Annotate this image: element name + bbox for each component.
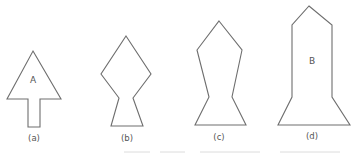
shape-d-inner-label: B	[309, 56, 315, 66]
shape-a-outline	[7, 51, 61, 127]
shape-d: B (d)	[278, 6, 350, 141]
shape-c: (c)	[195, 21, 246, 142]
shape-a-caption: (a)	[28, 133, 40, 143]
shape-b: (b)	[101, 36, 151, 143]
shapes-figure: A (a) (b) (c) B (d)	[0, 0, 354, 154]
shape-d-caption: (d)	[306, 131, 318, 141]
shape-a-inner-label: A	[30, 75, 37, 85]
shape-a: A (a)	[7, 51, 61, 143]
shape-b-outline	[101, 36, 151, 126]
shape-c-caption: (c)	[213, 132, 224, 142]
shape-b-caption: (b)	[121, 133, 133, 143]
shape-c-outline	[195, 21, 246, 125]
